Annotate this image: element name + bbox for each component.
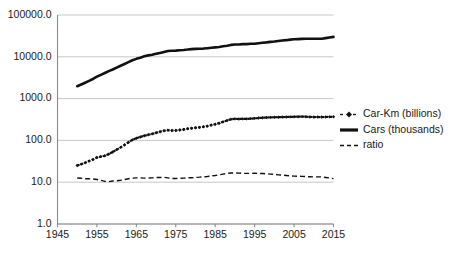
y-tick-label: 1000.0 [19,91,51,103]
y-tick-label: 100.0 [25,133,51,145]
legend-label: Car-Km (billions) [363,107,441,119]
y-tick-label: 10000.0 [14,50,52,62]
x-tick-label: 2015 [322,228,346,240]
y-tick-label: 1.0 [37,217,52,229]
x-tick-label: 1965 [125,228,149,240]
x-tick-label: 1955 [85,228,109,240]
y-tick-label: 100000.0 [8,8,52,20]
x-tick-label: 1995 [243,228,267,240]
x-tick-label: 2005 [282,228,306,240]
log-line-chart: 100000.010000.01000.0100.010.01.0 194519… [0,0,453,257]
x-tick-label: 1945 [46,228,70,240]
x-tick-label: 1985 [204,228,228,240]
x-tick-label: 1975 [164,228,188,240]
legend-label: ratio [363,138,384,150]
y-tick-label: 10.0 [31,175,52,187]
chart-container: 100000.010000.01000.0100.010.01.0 194519… [0,0,453,257]
legend-label: Cars (thousands) [363,123,444,135]
